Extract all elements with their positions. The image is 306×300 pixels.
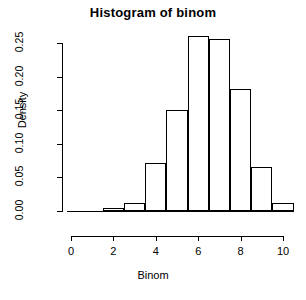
histogram-bar [188, 36, 209, 211]
x-axis-label: Binom [0, 269, 306, 281]
histogram-bar [103, 208, 124, 211]
histogram-bar [166, 110, 187, 211]
histogram-bar [124, 203, 145, 211]
histogram-bars [0, 0, 306, 300]
histogram-bar [145, 163, 166, 211]
histogram-plot: Histogram of binom Density 0.000.050.100… [0, 0, 306, 300]
bar-baseline [67, 211, 294, 212]
histogram-bar [230, 89, 251, 211]
histogram-bar [209, 39, 230, 211]
histogram-bar [272, 203, 293, 211]
histogram-bar [251, 167, 272, 211]
